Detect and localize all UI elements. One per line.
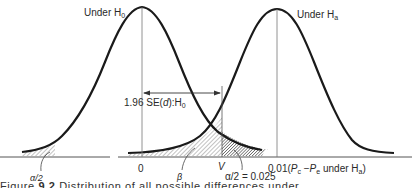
- axis-zero-label: 0: [138, 163, 144, 174]
- interval-label: 1.96 SE(d):H0: [124, 97, 186, 111]
- alternative-distribution-curve: [128, 9, 394, 153]
- arrowhead-right-icon: [214, 91, 221, 96]
- critical-value-label: V: [218, 161, 225, 172]
- null-curve-label: Under H0: [84, 7, 125, 21]
- distribution-diagram: [0, 0, 416, 188]
- alt-curve-label: Under Ha: [297, 9, 338, 23]
- right-tail-shading: [222, 132, 269, 156]
- arrowhead-left-icon: [143, 91, 150, 96]
- alt-axis-label: 0.01(Pc −Pe under Ha): [268, 163, 366, 177]
- figure-caption: Figure 9.2 Distribution of all possible …: [0, 180, 299, 188]
